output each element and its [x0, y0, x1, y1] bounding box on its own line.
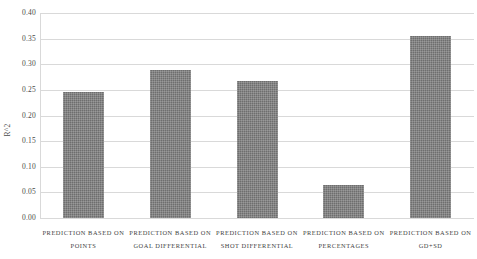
- x-axis-category-label: PREDICTION BASED ONPOINTS: [40, 226, 127, 252]
- y-axis-tick-label: 0.00: [4, 214, 36, 222]
- y-axis-tick-label: 0.10: [4, 163, 36, 171]
- y-axis-tick-label: 0.25: [4, 86, 36, 94]
- gridline: [40, 39, 474, 40]
- bar: [410, 36, 451, 218]
- gridline: [40, 13, 474, 14]
- y-axis-tick-labels: 0.400.350.300.250.200.150.100.050.00: [0, 13, 36, 218]
- gridline: [40, 218, 474, 219]
- bar: [323, 185, 364, 218]
- gridline: [40, 64, 474, 65]
- x-axis-category-labels: PREDICTION BASED ONPOINTSPREDICTION BASE…: [40, 226, 474, 259]
- y-axis-tick-label: 0.15: [4, 137, 36, 145]
- y-axis-tick-label: 0.20: [4, 112, 36, 120]
- y-axis-tick-label: 0.35: [4, 35, 36, 43]
- x-axis-category-label: PREDICTION BASED ONSHOT DIFFERENTIAL: [214, 226, 301, 252]
- y-axis-tick-label: 0.30: [4, 61, 36, 69]
- y-axis-tick-label: 0.40: [4, 9, 36, 17]
- y-axis-tick-label: 0.05: [4, 189, 36, 197]
- bar: [63, 92, 104, 218]
- chart-screenshot: R^2 0.400.350.300.250.200.150.100.050.00…: [0, 0, 477, 259]
- plot-area: [40, 13, 474, 218]
- x-axis-category-label: PREDICTION BASED ONGD+SD: [387, 226, 474, 252]
- bar: [237, 81, 278, 218]
- x-axis-category-label: PREDICTION BASED ONPERCENTAGES: [300, 226, 387, 252]
- bar: [150, 70, 191, 218]
- x-axis-category-label: PREDICTION BASED ONGOAL DIFFERENTIAL: [127, 226, 214, 252]
